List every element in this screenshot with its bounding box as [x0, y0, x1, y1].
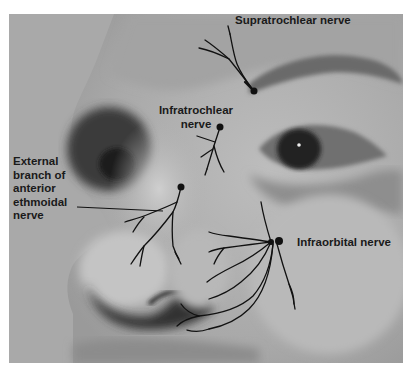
- infratrochlear-nerve-label: Infratrochlear nerve: [154, 104, 238, 131]
- infraorbital-nerve-label: Infraorbital nerve: [297, 236, 391, 250]
- iris: [277, 129, 321, 169]
- nasal-ala: [169, 229, 229, 309]
- external-nasal-nerve-label: External branch of anterior ethmoidal ne…: [13, 155, 67, 223]
- face-photo: [9, 14, 403, 363]
- anatomy-figure: Supratrochlear nerve Infratrochlear nerv…: [9, 14, 403, 363]
- eye-highlight: [297, 143, 301, 147]
- cheek: [249, 194, 403, 354]
- supratrochlear-nerve-label: Supratrochlear nerve: [235, 14, 351, 28]
